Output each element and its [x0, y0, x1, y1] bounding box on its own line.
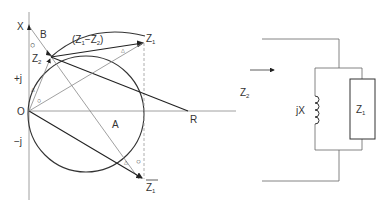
inductor-label: jX	[295, 105, 305, 116]
x-axis-label: X	[17, 21, 24, 32]
svg-text:Z1: Z1	[146, 182, 156, 194]
z2-point-label: Z2	[32, 53, 42, 65]
line-z2-to-r	[51, 57, 188, 111]
z1-point-label: Z1	[146, 33, 156, 45]
inductor-coil-icon	[315, 96, 319, 124]
angle-mark-triangle-a: △	[124, 159, 128, 165]
b-label: B	[40, 29, 47, 40]
angle-mark-circle-a: ○	[136, 157, 141, 166]
diagram-canvas: ○ ○ △ △ △ ○ X +j O −j R B A Z2 Z1 Z1 (Z1…	[0, 0, 389, 211]
difference-label: (Z1−Z2)	[72, 34, 103, 46]
origin-label: O	[17, 106, 25, 117]
z1-conjugate-label: Z1	[146, 180, 158, 194]
impedance-circle	[28, 56, 144, 172]
vector-o-to-z1	[29, 43, 143, 111]
angle-mark-circle-b: ○	[30, 40, 35, 50]
angle-mark-triangle-z1: △	[121, 47, 125, 53]
vector-o-to-z1-conjugate	[29, 111, 142, 178]
negative-j-label: −j	[14, 136, 22, 147]
circuit-z2-label: Z2	[240, 87, 250, 99]
load-label: Z1	[356, 104, 366, 116]
r-label: R	[190, 114, 197, 125]
angle-mark-triangle-o: △	[31, 86, 35, 92]
x-axis-arrowhead	[27, 24, 31, 30]
a-label: A	[112, 119, 119, 130]
load-impedance-box	[350, 79, 375, 139]
angle-mark-circle-o: ○	[37, 97, 41, 104]
b-arrowhead	[46, 50, 52, 56]
positive-j-label: +j	[14, 73, 22, 84]
